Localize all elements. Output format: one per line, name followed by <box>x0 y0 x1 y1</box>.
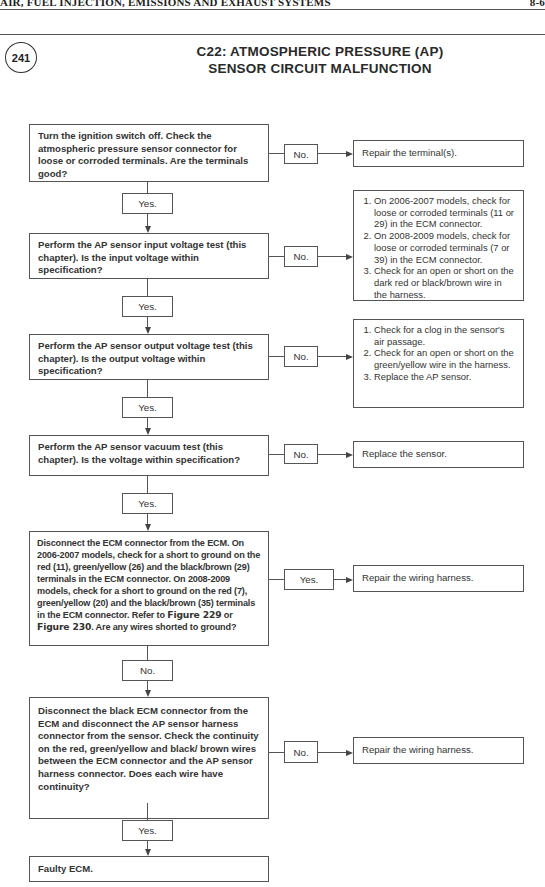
page-number: 8-6 <box>530 0 545 8</box>
step-5-box: Disconnect the ECM connector from the EC… <box>29 531 269 646</box>
label-text: No. <box>293 251 308 262</box>
figure-number-badge: 241 <box>5 42 37 73</box>
list-item: Check for an open or short on the green/… <box>374 347 517 370</box>
running-title: AIR, FUEL INJECTION, EMISSIONS AND EXHAU… <box>0 0 331 8</box>
figure-230-link[interactable]: Figure 230 <box>37 621 91 632</box>
connector-line <box>268 752 284 753</box>
step-6-box: Disconnect the black ECM connector from … <box>29 697 269 819</box>
arrow-right-icon <box>346 452 353 458</box>
step-5-result-box: Repair the wiring harness. <box>353 565 524 592</box>
step-7-box: Faulty ECM. <box>29 856 269 882</box>
arrow-right-icon <box>346 151 353 157</box>
step-5-text-between: or <box>221 610 232 620</box>
label-text: No. <box>293 747 308 758</box>
connector-line <box>147 181 148 193</box>
step-6-no-label: No. <box>284 741 318 763</box>
label-text: Yes. <box>138 498 157 509</box>
step-6-result-box: Repair the wiring harness. <box>353 737 524 764</box>
step-5-no-label: No. <box>122 660 173 681</box>
list-item: Check for an open or short on the dark r… <box>374 265 517 300</box>
connector-line <box>268 356 284 357</box>
step-4-result-text: Replace the sensor. <box>362 448 447 459</box>
connector-line <box>268 256 284 257</box>
list-item: On 2008-2009 models, check for loose or … <box>374 230 517 265</box>
step-3-result-list: Check for a clog in the sensor's air pas… <box>360 324 517 383</box>
connector-line <box>268 454 284 455</box>
arrow-right-icon <box>346 254 353 260</box>
arrow-right-icon <box>346 354 353 360</box>
connector-line <box>268 579 284 580</box>
connector-line <box>147 475 148 493</box>
label-text: Yes. <box>300 574 319 585</box>
figure-title-line2: SENSOR CIRCUIT MALFUNCTION <box>100 61 540 76</box>
arrow-down-icon <box>145 327 151 334</box>
figure-title-line1: C22: ATMOSPHERIC PRESSURE (AP) <box>100 44 540 59</box>
arrow-down-icon <box>145 690 151 697</box>
label-text: Yes. <box>138 198 157 209</box>
label-text: No. <box>293 149 308 160</box>
list-item: Replace the AP sensor. <box>374 371 517 383</box>
connector-line <box>147 645 148 661</box>
arrow-down-icon <box>145 226 151 233</box>
step-6-result-text: Repair the wiring harness. <box>362 744 473 755</box>
connector-line <box>268 153 284 154</box>
arrow-down-icon <box>145 524 151 531</box>
figure-229-link[interactable]: Figure 229 <box>167 609 221 620</box>
list-item: On 2006-2007 models, check for loose or … <box>374 195 517 230</box>
arrow-right-icon <box>346 577 353 583</box>
step-2-result-box: On 2006-2007 models, check for loose or … <box>353 190 524 301</box>
label-text: No. <box>293 449 308 460</box>
step-1-result-text: Repair the terminal(s). <box>362 147 457 158</box>
step-4-result-box: Replace the sensor. <box>353 441 524 468</box>
step-1-text: Turn the ignition switch off. Check the … <box>38 130 248 179</box>
connector-line <box>147 379 148 397</box>
connector-line <box>318 256 346 257</box>
connector-line <box>318 752 346 753</box>
step-5-question: . Are any wires shorted to ground? <box>91 622 236 632</box>
step-3-result-box: Check for a clog in the sensor's air pas… <box>353 319 524 408</box>
step-4-text: Perform the AP sensor vacuum test (this … <box>38 441 240 465</box>
step-3-yes-label: Yes. <box>122 397 173 418</box>
step-4-no-label: No. <box>284 444 318 464</box>
label-text: Yes. <box>138 402 157 413</box>
figure-number: 241 <box>12 52 30 64</box>
step-5-yes-label: Yes. <box>284 569 334 590</box>
step-3-text: Perform the AP sensor output voltage tes… <box>38 340 253 376</box>
running-header: AIR, FUEL INJECTION, EMISSIONS AND EXHAU… <box>0 0 545 9</box>
arrow-down-icon <box>145 428 151 435</box>
header-rule <box>0 9 545 10</box>
step-4-yes-label: Yes. <box>122 493 173 514</box>
connector-line <box>318 454 346 455</box>
connector-line <box>334 579 346 580</box>
step-5-result-text: Repair the wiring harness. <box>362 572 473 583</box>
label-text: No. <box>293 351 308 362</box>
connector-line <box>147 278 148 296</box>
step-3-no-label: No. <box>284 346 318 367</box>
step-6-text: Disconnect the black ECM connector from … <box>38 705 259 792</box>
step-2-box: Perform the AP sensor input voltage test… <box>29 233 269 279</box>
step-4-box: Perform the AP sensor vacuum test (this … <box>29 435 269 476</box>
label-text: Yes. <box>138 825 157 836</box>
step-1-yes-label: Yes. <box>122 193 173 214</box>
step-7-text: Faulty ECM. <box>38 863 93 874</box>
connector-line <box>318 356 346 357</box>
arrow-right-icon <box>346 750 353 756</box>
section-rule <box>0 34 545 35</box>
step-2-no-label: No. <box>284 246 318 267</box>
step-3-box: Perform the AP sensor output voltage tes… <box>29 334 269 380</box>
step-2-yes-label: Yes. <box>122 296 173 317</box>
list-item: Check for a clog in the sensor's air pas… <box>374 324 517 347</box>
step-1-no-label: No. <box>284 144 318 164</box>
label-text: No. <box>140 665 155 676</box>
step-1-result-box: Repair the terminal(s). <box>353 140 524 167</box>
label-text: Yes. <box>138 301 157 312</box>
step-2-text: Perform the AP sensor input voltage test… <box>38 239 246 275</box>
step-6-yes-label: Yes. <box>122 820 173 841</box>
arrow-down-icon <box>145 849 151 856</box>
step-5-text: Disconnect the ECM connector from the EC… <box>37 538 260 620</box>
step-2-result-list: On 2006-2007 models, check for loose or … <box>360 195 517 300</box>
step-1-box: Turn the ignition switch off. Check the … <box>29 124 269 182</box>
connector-line <box>318 153 346 154</box>
